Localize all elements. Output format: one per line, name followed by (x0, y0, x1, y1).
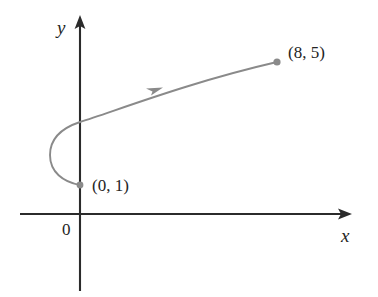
point-marker-end (273, 58, 280, 65)
x-axis-label: x (341, 226, 349, 245)
parametric-curve (50, 62, 277, 185)
point-label-end: (8, 5) (288, 44, 325, 61)
point-label-start: (0, 1) (92, 177, 129, 194)
point-marker-start (77, 182, 84, 189)
origin-label: 0 (62, 221, 71, 238)
y-axis-label: y (57, 18, 65, 37)
